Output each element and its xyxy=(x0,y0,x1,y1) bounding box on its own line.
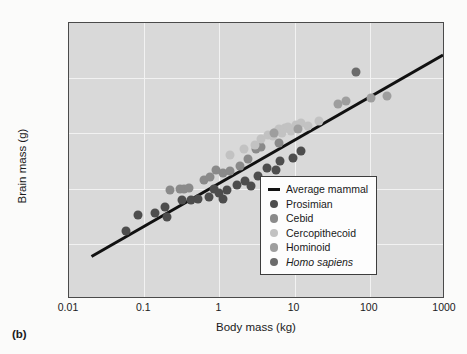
data-point xyxy=(276,156,285,165)
data-point xyxy=(303,121,312,130)
legend-item: Average mammal xyxy=(267,182,368,197)
data-point xyxy=(162,212,171,221)
x-tick-label: 10 xyxy=(288,301,300,313)
legend-item: Hominoid xyxy=(267,240,368,255)
legend-label: Cercopithecoid xyxy=(286,227,356,239)
data-point xyxy=(383,91,392,100)
data-point xyxy=(314,116,323,125)
legend-label: Prosimian xyxy=(286,198,333,210)
data-point xyxy=(165,185,174,194)
y-axis-title: Brain mass (g) xyxy=(16,86,28,246)
legend-dot-icon xyxy=(267,229,281,238)
panel-label: (b) xyxy=(12,328,27,340)
data-point xyxy=(206,173,215,182)
data-point xyxy=(122,227,131,236)
x-axis-title: Body mass (kg) xyxy=(68,321,444,333)
data-point xyxy=(161,203,170,212)
data-point xyxy=(246,182,255,191)
data-point xyxy=(288,153,297,162)
data-point xyxy=(185,184,194,193)
data-point xyxy=(243,155,252,164)
data-point xyxy=(351,67,360,76)
legend-label: Homo sapiens xyxy=(286,256,353,268)
figure-panel-b: 0.010.111010010000.11101001,00010,000 Bo… xyxy=(0,0,467,354)
legend-item: Cercopithecoid xyxy=(267,226,368,241)
x-tick-label: 0.01 xyxy=(58,301,78,313)
legend: Average mammalProsimianCebidCercopitheco… xyxy=(260,176,377,275)
x-tick-label: 1 xyxy=(215,301,221,313)
data-point xyxy=(236,161,245,170)
data-point xyxy=(296,147,305,156)
legend-dot-icon xyxy=(267,200,281,209)
data-points xyxy=(69,23,443,297)
data-point xyxy=(367,94,376,103)
data-point xyxy=(271,165,280,174)
legend-item: Homo sapiens xyxy=(267,255,368,270)
data-point xyxy=(178,196,187,205)
legend-label: Cebid xyxy=(286,212,313,224)
data-point xyxy=(204,192,213,201)
data-point xyxy=(341,97,350,106)
data-point xyxy=(232,181,241,190)
data-point xyxy=(226,150,235,159)
data-point xyxy=(263,163,272,172)
legend-label: Average mammal xyxy=(286,183,368,195)
data-point xyxy=(270,128,279,137)
legend-item: Cebid xyxy=(267,211,368,226)
legend-label: Hominoid xyxy=(286,241,330,253)
data-point xyxy=(151,209,160,218)
data-point xyxy=(218,195,227,204)
data-point xyxy=(133,211,142,220)
legend-item: Prosimian xyxy=(267,197,368,212)
x-tick-label: 100 xyxy=(360,301,378,313)
data-point xyxy=(194,195,203,204)
data-point xyxy=(293,125,302,134)
x-tick-label: 0.1 xyxy=(136,301,151,313)
data-point xyxy=(222,186,231,195)
legend-dot-icon xyxy=(267,243,281,252)
legend-dot-icon xyxy=(267,214,281,223)
data-point xyxy=(239,145,248,154)
x-tick-label: 1000 xyxy=(432,301,455,313)
plot-area xyxy=(68,22,444,298)
legend-dot-icon xyxy=(267,258,281,267)
legend-line-icon xyxy=(267,188,281,191)
data-point xyxy=(226,166,235,175)
